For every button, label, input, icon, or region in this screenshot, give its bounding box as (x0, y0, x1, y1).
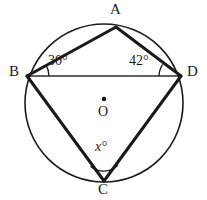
chord-ab (27, 27, 116, 76)
vertex-label-d: D (187, 64, 198, 79)
vertex-label-b: B (9, 64, 19, 79)
angle-arc-d (159, 64, 163, 76)
angle-label-42: 42° (129, 54, 149, 68)
chord-ad (116, 27, 181, 76)
center-label-o: O (98, 105, 108, 119)
angle-label-x: x° (95, 140, 107, 154)
center-dot (102, 97, 107, 102)
geometry-figure: A B C D O 30° 42° x° (0, 0, 207, 200)
circumscribed-circle (25, 24, 183, 182)
chord-cd (104, 76, 181, 181)
vertex-label-c: C (98, 182, 108, 197)
vertex-label-a: A (110, 2, 121, 17)
angle-label-30: 30° (48, 54, 68, 68)
chord-bc (27, 76, 104, 181)
geometry-canvas (0, 0, 207, 200)
